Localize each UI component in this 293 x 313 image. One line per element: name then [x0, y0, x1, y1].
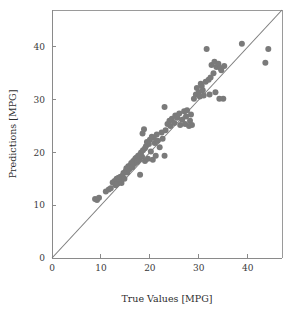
y-tick-label: 30: [34, 95, 46, 105]
x-tick-label: 30: [193, 263, 205, 273]
scatter-point: [188, 111, 194, 117]
plot-canvas: 010203040 010203040 True Values [MPG] Pr…: [0, 0, 293, 313]
scatter-point: [201, 92, 207, 98]
scatter-point: [239, 41, 245, 47]
scatter-plot-figure: 010203040 010203040 True Values [MPG] Pr…: [0, 0, 293, 313]
scatter-point: [153, 153, 159, 159]
scatter-point: [262, 60, 268, 66]
y-tick-label: 10: [34, 200, 46, 210]
scatter-point: [189, 122, 195, 128]
scatter-point: [162, 104, 168, 110]
scatter-point: [204, 46, 210, 52]
y-tick-label: 20: [34, 148, 46, 158]
scatter-point: [162, 153, 168, 159]
scatter-point: [163, 127, 169, 133]
scatter-point: [157, 144, 163, 150]
scatter-point: [171, 120, 177, 126]
scatter-point: [137, 172, 143, 178]
x-tick-label: 10: [95, 263, 107, 273]
scatter-point: [200, 87, 206, 93]
scatter-point: [220, 96, 226, 102]
scatter-point: [210, 70, 216, 76]
scatter-point: [207, 91, 213, 97]
x-tick-label: 40: [242, 263, 254, 273]
x-tick-label: 20: [144, 263, 156, 273]
scatter-point: [160, 136, 166, 142]
scatter-point: [148, 148, 154, 154]
y-axis-title: Predictions [MPG]: [7, 90, 18, 179]
scatter-point: [221, 63, 227, 69]
y-tick-label: 40: [34, 42, 46, 52]
x-tick-label: 0: [49, 263, 55, 273]
scatter-point: [121, 176, 127, 182]
scatter-point: [141, 126, 147, 132]
scatter-point: [265, 46, 271, 52]
scatter-point: [212, 89, 218, 95]
x-axis-title: True Values [MPG]: [121, 293, 212, 304]
y-tick-label: 0: [39, 253, 45, 263]
scatter-point: [96, 195, 102, 201]
